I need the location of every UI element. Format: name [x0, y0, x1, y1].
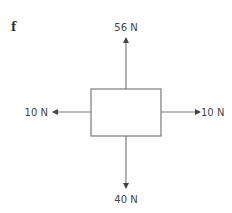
- body-box: [91, 89, 161, 136]
- force-down-label: 40 N: [114, 194, 137, 205]
- force-left-label: 10 N: [25, 107, 48, 118]
- force-right-label: 10 N: [201, 107, 224, 118]
- force-right: 10 N: [161, 107, 224, 118]
- force-left: 10 N: [25, 107, 91, 118]
- force-up: 56 N: [114, 22, 137, 89]
- force-down: 40 N: [114, 136, 137, 205]
- force-up-label: 56 N: [114, 22, 137, 33]
- part-label: f: [11, 20, 17, 34]
- free-body-diagram: f 56 N 40 N 10 N 10 N: [0, 0, 232, 213]
